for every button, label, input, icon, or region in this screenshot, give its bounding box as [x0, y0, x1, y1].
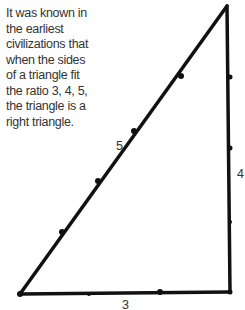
vertical-side-label: 4	[237, 167, 244, 181]
hypotenuse-label: 5	[116, 139, 123, 153]
base-label: 3	[122, 298, 129, 310]
right-triangle-diagram	[0, 0, 245, 310]
knot-marks	[17, 73, 233, 297]
hypotenuse-side	[20, 6, 227, 294]
base-side	[20, 292, 230, 294]
